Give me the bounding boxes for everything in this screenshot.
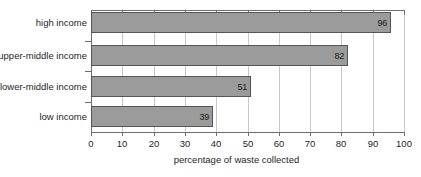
bar-value-label: 96 xyxy=(377,18,387,27)
x-axis-title-text: percentage of waste collected xyxy=(174,155,300,165)
category-label: low income xyxy=(39,112,87,122)
gridline xyxy=(404,10,405,132)
tick-bottom xyxy=(154,132,155,136)
x-tick-label: 60 xyxy=(274,139,285,149)
category-tick xyxy=(85,102,91,103)
tick-bottom xyxy=(310,132,311,136)
bar: 96 xyxy=(91,12,391,33)
tick-bottom xyxy=(341,132,342,136)
tick-bottom xyxy=(185,132,186,136)
bar-value-label: 82 xyxy=(334,51,344,60)
bar-value-label: 39 xyxy=(199,112,209,121)
x-tick-label: 80 xyxy=(336,139,347,149)
tick-bottom xyxy=(91,132,92,136)
category-label: upper-middle income xyxy=(0,51,87,61)
x-tick-label: 10 xyxy=(117,139,128,149)
x-tick-label: 70 xyxy=(305,139,316,149)
x-tick-label: 90 xyxy=(368,139,379,149)
bar: 51 xyxy=(91,76,251,97)
tick-top xyxy=(404,10,405,15)
bar-value-label: 51 xyxy=(237,82,247,91)
tick-bottom xyxy=(404,132,405,136)
tick-bottom xyxy=(122,132,123,136)
bar: 82 xyxy=(91,45,348,66)
x-axis-title: percentage of waste collected xyxy=(0,155,421,165)
tick-bottom xyxy=(248,132,249,136)
x-tick-label: 100 xyxy=(396,139,412,149)
x-tick-label: 50 xyxy=(243,139,254,149)
bar: 39 xyxy=(91,106,213,127)
tick-bottom xyxy=(373,132,374,136)
category-tick xyxy=(85,41,91,42)
x-tick-label: 30 xyxy=(180,139,191,149)
x-tick-label: 0 xyxy=(88,139,93,149)
tick-bottom xyxy=(279,132,280,136)
category-label: lower-middle income xyxy=(0,82,87,92)
x-tick-label: 40 xyxy=(211,139,222,149)
category-tick xyxy=(85,71,91,72)
x-tick-label: 20 xyxy=(149,139,160,149)
category-label: high income xyxy=(36,18,87,28)
tick-bottom xyxy=(216,132,217,136)
bar-chart: 96825139 high incomeupper-middle incomel… xyxy=(0,0,421,177)
